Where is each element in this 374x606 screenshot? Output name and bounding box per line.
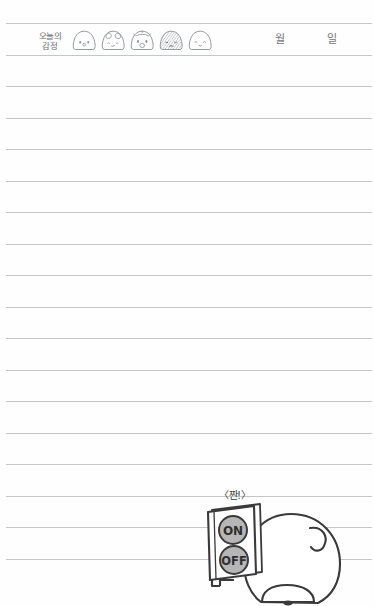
rule-line	[6, 118, 372, 119]
on-button-label: ON	[223, 524, 243, 538]
rule-line	[6, 275, 372, 276]
face-happy-icon[interactable]	[187, 28, 214, 54]
rule-line	[6, 433, 372, 434]
rule-line	[6, 212, 372, 213]
rule-line	[6, 244, 372, 245]
date-month-unit[interactable]: 월	[275, 30, 285, 46]
rule-line	[6, 464, 372, 465]
rule-line	[6, 401, 372, 402]
face-gloomy-icon[interactable]	[158, 28, 185, 54]
face-surprised-icon[interactable]	[129, 28, 156, 54]
rule-line	[6, 86, 372, 87]
rule-line	[6, 181, 372, 182]
off-button-label: OFF	[221, 554, 247, 568]
date-fields[interactable]: 월 일	[275, 30, 337, 46]
rule-line	[6, 307, 372, 308]
rule-line	[6, 370, 372, 371]
mood-face-options[interactable]	[71, 28, 214, 54]
rule-line	[6, 338, 372, 339]
face-neutral-icon[interactable]	[71, 28, 98, 54]
speech-text: 〈짠!〉	[219, 487, 250, 502]
date-day-unit[interactable]: 일	[327, 30, 337, 46]
character-illustration: ON OFF	[198, 484, 374, 606]
mood-label: 오늘의 감정	[33, 31, 67, 51]
face-sleepy-icon[interactable]	[100, 28, 127, 54]
rule-line	[6, 149, 372, 150]
diary-page: 오늘의 감정	[0, 0, 374, 606]
